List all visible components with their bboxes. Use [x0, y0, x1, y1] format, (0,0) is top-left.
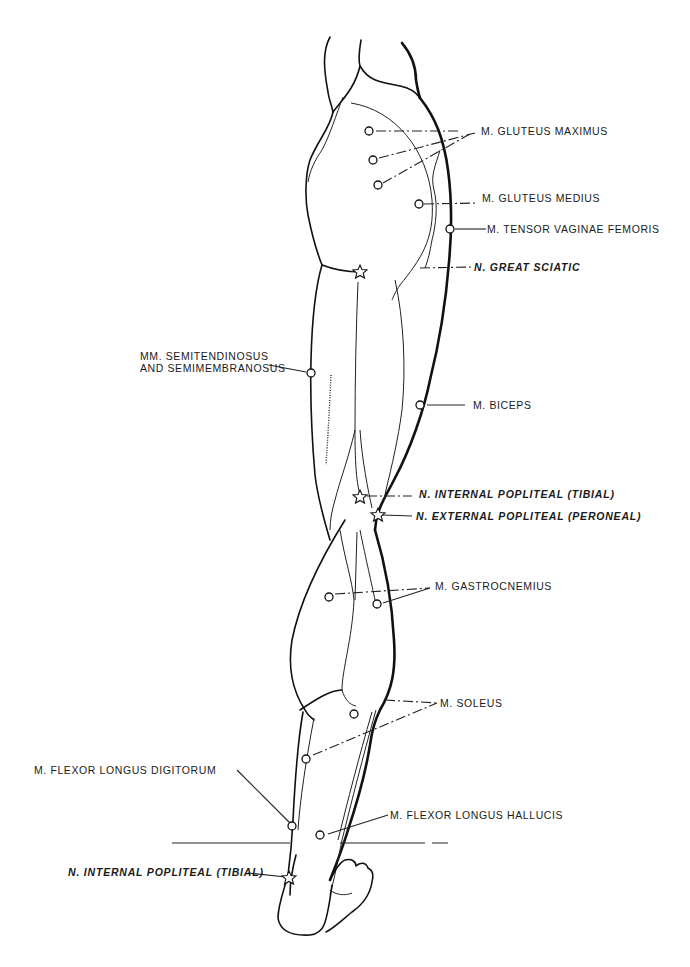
leader-gluteus-maximus-2 [379, 133, 475, 158]
motor-point-flexor-digitorum [288, 822, 296, 830]
label-semitendinosus: MM. SEMITENDINOSUS AND SEMIMEMBRANOSUS [140, 350, 266, 374]
gastrocnemius-medial-head [340, 530, 356, 706]
heel-contour [278, 875, 332, 935]
motor-point-flexor-hallucis [316, 831, 324, 839]
gastrocnemius-lateral-head [360, 530, 375, 600]
motor-point-soleus-medial [302, 755, 310, 763]
torso-left-edge [325, 37, 334, 112]
label-semitendinosus-line1: MM. SEMITENDINOSUS [140, 350, 266, 362]
buttock-cleft [359, 40, 420, 98]
nerve-point-internal-popliteal-ankle [282, 871, 296, 884]
foot-arch [330, 890, 352, 895]
label-internal-popliteal: N. INTERNAL POPLITEAL (TIBIAL) [419, 488, 615, 500]
leader-external-popliteal [382, 515, 412, 516]
leader-gluteus-maximus-3 [383, 134, 470, 183]
motor-point-biceps [416, 401, 424, 409]
leg-outer-contour [375, 98, 451, 530]
torso-crease [333, 66, 360, 112]
nerve-point-great-sciatic [353, 265, 367, 278]
motor-point-gluteus-maximus-1 [365, 127, 373, 135]
tendon-hatching [326, 375, 331, 465]
sciatic-line [355, 282, 360, 495]
motor-point-semitendinosus [307, 369, 315, 377]
label-tensor-vaginae-femoris: M. TENSOR VAGINAE FEMORIS [487, 223, 660, 235]
gastrocnemius-lower-border [300, 690, 342, 710]
leader-soleus-2 [313, 703, 437, 755]
popliteal-medial [330, 430, 355, 530]
buttock-inner-line [308, 97, 343, 182]
shin-medial-contour [288, 712, 303, 875]
label-semitendinosus-line2: AND SEMIMEMBRANOSUS [140, 362, 266, 374]
nerve-point-external-popliteal [371, 508, 385, 521]
label-biceps: M. BICEPS [473, 399, 532, 411]
leader-flexor-digitorum [237, 770, 290, 823]
thigh-medial-contour [311, 265, 330, 540]
achilles-line-2 [338, 712, 372, 840]
label-gluteus-medius: M. GLUTEUS MEDIUS [482, 192, 600, 204]
label-great-sciatic: N. GREAT SCIATIC [474, 261, 580, 273]
motor-point-gastrocnemius-medial [325, 593, 333, 601]
calf-lateral-contour [330, 530, 394, 880]
leader-flexor-hallucis [328, 815, 388, 834]
label-gastrocnemius: M. GASTROCNEMIUS [435, 580, 552, 592]
motor-point-gluteus-maximus-3 [374, 181, 382, 189]
gastrocnemius-center [355, 532, 357, 600]
label-soleus: M. SOLEUS [440, 697, 503, 709]
label-external-popliteal: N. EXTERNAL POPLITEAL (PERONEAL) [416, 510, 641, 522]
label-flexor-longus-digitorum: M. FLEXOR LONGUS DIGITORUM [34, 764, 216, 776]
leg-drawing [0, 0, 690, 967]
label-flexor-longus-hallucis: M. FLEXOR LONGUS HALLUCIS [390, 809, 563, 821]
motor-point-gastrocnemius-lateral [373, 600, 381, 608]
leader-great-sciatic [420, 267, 472, 268]
motor-point-soleus [350, 710, 358, 718]
leader-soleus-1 [385, 700, 437, 703]
label-gluteus-maximus: M. GLUTEUS MAXIMUS [481, 125, 608, 137]
nerve-point-internal-popliteal [353, 490, 367, 503]
motor-point-gluteus-maximus-2 [369, 156, 377, 164]
leg-motor-points-diagram: M. GLUTEUS MAXIMUS M. GLUTEUS MEDIUS M. … [0, 0, 690, 967]
label-internal-popliteal-ankle: N. INTERNAL POPLITEAL (TIBIAL) [68, 866, 264, 878]
motor-point-gluteus-medius [415, 200, 423, 208]
motor-point-tensor-vaginae [446, 225, 454, 233]
